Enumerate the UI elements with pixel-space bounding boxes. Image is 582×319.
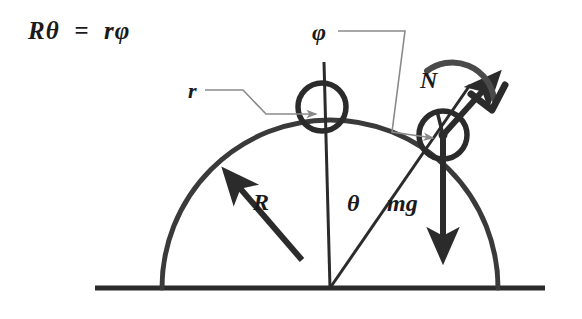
radial-line <box>330 85 470 288</box>
vertical-axis-line <box>324 62 330 288</box>
theta-label: θ <box>347 191 359 215</box>
radius-arrow <box>226 172 302 260</box>
phi-label: φ <box>312 20 326 44</box>
r-label: r <box>188 80 197 102</box>
R-label: R <box>253 190 269 214</box>
diagram-canvas <box>0 0 582 319</box>
rolling-constraint-equation: Rθ = rφ <box>28 18 130 43</box>
physics-diagram: Rθ = rφ φ r N R θ mg <box>0 0 582 319</box>
cylinder-at-apex <box>298 83 346 131</box>
weight-label: mg <box>387 191 418 215</box>
normal-force-label: N <box>420 68 437 92</box>
